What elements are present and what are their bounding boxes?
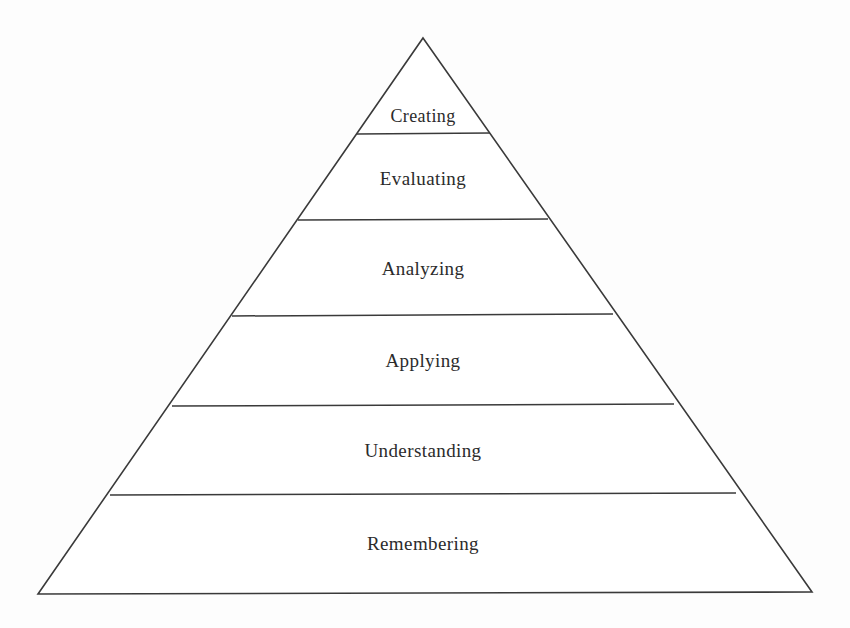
tier-label-analyzing: Analyzing [382,258,465,279]
blooms-taxonomy-diagram: Creating Evaluating Analyzing Applying U… [0,0,850,628]
tier-label-creating: Creating [390,106,455,126]
pyramid-canvas: Creating Evaluating Analyzing Applying U… [0,0,850,628]
tier-label-remembering: Remembering [367,533,479,554]
tier-label-understanding: Understanding [364,440,481,461]
tier-divider-creating-evaluating [357,133,490,134]
tier-label-evaluating: Evaluating [380,168,466,189]
tier-label-applying: Applying [386,350,461,371]
tier-divider-evaluating-analyzing [298,219,548,220]
